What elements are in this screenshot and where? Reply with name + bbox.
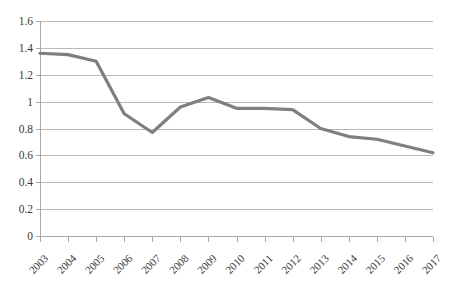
y-tick-label: 0.4 [19, 176, 34, 188]
y-tick-label: 0.6 [19, 149, 34, 161]
y-axis-tick-labels: 00.20.40.60.811.21.41.6 [19, 15, 34, 242]
y-tick-label: 0.2 [19, 203, 34, 215]
y-tick-label: 0 [27, 230, 33, 242]
chart-canvas: 00.20.40.60.811.21.41.6 2003200420052006… [0, 0, 449, 288]
y-tick-label: 0.8 [19, 123, 34, 135]
y-tick-label: 1.6 [19, 15, 34, 27]
chart-background [0, 0, 449, 288]
y-tick-label: 1.4 [19, 42, 34, 54]
y-tick-label: 1.2 [19, 69, 34, 81]
line-chart: 00.20.40.60.811.21.41.6 2003200420052006… [0, 0, 449, 288]
y-tick-label: 1 [27, 96, 33, 108]
